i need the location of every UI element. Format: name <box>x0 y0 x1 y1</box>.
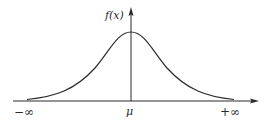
normal-distribution-diagram: f(x) −∞ μ +∞ <box>0 0 272 126</box>
y-axis-label: f(x) <box>104 9 124 22</box>
x-label-positive-infinity: +∞ <box>220 105 240 119</box>
x-label-mu: μ <box>126 105 133 118</box>
x-label-negative-infinity: −∞ <box>14 105 34 119</box>
